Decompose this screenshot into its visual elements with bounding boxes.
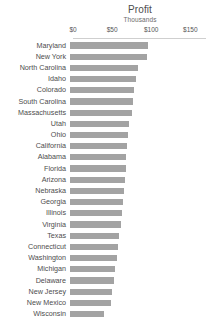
bar-track [70,185,218,196]
bar-row: California [0,141,218,152]
bar [70,233,119,239]
bar-row: New York [0,51,218,62]
bar-track [70,286,218,297]
bar-track [70,297,218,308]
bar-row: Connecticut [0,241,218,252]
bar [70,221,121,227]
bar-row: Ohio [0,130,218,141]
bar [70,143,127,149]
category-label: Arizona [0,176,70,184]
bar-row: Arizona [0,174,218,185]
x-axis-tick-labels: $0$50$100$150 [0,26,218,38]
category-label: Maryland [0,42,70,50]
bar-track [70,219,218,230]
bar-track [70,96,218,107]
category-label: Utah [0,120,70,128]
bar-row: North Carolina [0,62,218,73]
bar-track [70,264,218,275]
bar [70,42,148,48]
bar-track [70,118,218,129]
bar-row: Georgia [0,197,218,208]
category-label: Colorado [0,86,70,94]
bar-row: Delaware [0,275,218,286]
category-label: New Mexico [0,299,70,307]
category-label: North Carolina [0,64,70,72]
bar [70,300,111,306]
category-label: New Jersey [0,288,70,296]
bar-row: Florida [0,163,218,174]
category-label: Connecticut [0,243,70,251]
x-axis-tick-label: $50 [107,26,118,33]
bar-track [70,230,218,241]
category-label: Texas [0,232,70,240]
bar [70,98,133,104]
category-label: Wisconsin [0,310,70,318]
bar [70,54,147,60]
x-axis-line [73,38,206,39]
x-axis-tick-label: $0 [69,26,76,33]
bar [70,255,117,261]
category-label: Virginia [0,221,70,229]
category-label: Georgia [0,198,70,206]
bar-row: Colorado [0,85,218,96]
bar-row: Alabama [0,152,218,163]
category-label: Ohio [0,131,70,139]
bar [70,132,128,138]
bar-track [70,241,218,252]
bar-track [70,163,218,174]
bar-track [70,141,218,152]
bar-row: South Carolina [0,96,218,107]
bar-track [70,85,218,96]
bar-row: Utah [0,118,218,129]
category-label: Florida [0,165,70,173]
category-label: California [0,142,70,150]
category-label: New York [0,53,70,61]
x-axis-tick-label: $150 [183,26,197,33]
bar-track [70,174,218,185]
bar-track [70,130,218,141]
bar [70,110,132,116]
bar-row: Wisconsin [0,309,218,320]
bar [70,210,122,216]
bar [70,266,115,272]
bar [70,65,138,71]
category-label: Delaware [0,277,70,285]
bar-row: New Mexico [0,297,218,308]
bar-track [70,107,218,118]
bar-track [70,51,218,62]
bar-row: Michigan [0,264,218,275]
category-label: Massachusetts [0,109,70,117]
category-label: Illinois [0,209,70,217]
bar-row: Idaho [0,74,218,85]
bar [70,277,114,283]
bar [70,121,129,127]
bar-track [70,309,218,320]
bar-track [70,152,218,163]
bar [70,311,104,317]
bar-track [70,197,218,208]
bar-track [70,40,218,51]
category-label: Nebraska [0,187,70,195]
x-axis-tick-label: $100 [144,26,158,33]
bar [70,165,126,171]
bar [70,76,136,82]
bar [70,154,126,160]
bar-row: Massachusetts [0,107,218,118]
category-label: Idaho [0,75,70,83]
bar-row: Illinois [0,208,218,219]
bar-track [70,62,218,73]
bar-track [70,208,218,219]
category-label: South Carolina [0,98,70,106]
category-label: Washington [0,254,70,262]
bar-row: Maryland [0,40,218,51]
chart-title-block: Profit Thousands [74,4,206,24]
bar-row: Nebraska [0,185,218,196]
bar [70,199,123,205]
bar-row: Virginia [0,219,218,230]
bar [70,289,112,295]
bar-row: Washington [0,253,218,264]
bar [70,87,134,93]
profit-bar-chart: Profit Thousands $0$50$100$150 MarylandN… [0,0,218,324]
chart-title: Profit [74,4,206,15]
bar [70,244,118,250]
